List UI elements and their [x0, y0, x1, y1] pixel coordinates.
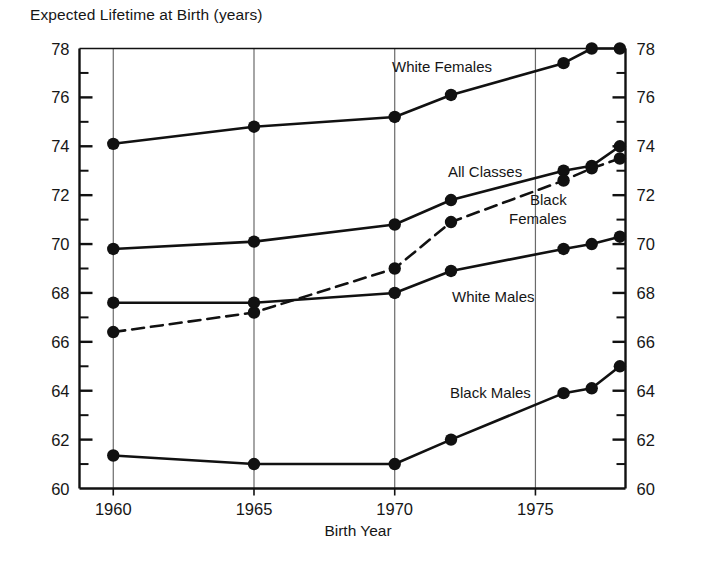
data-point-black-males-1960: [107, 449, 119, 461]
data-point-black-males-1978: [614, 360, 626, 372]
x-axis-tick-labels: 1960196519701975: [95, 500, 554, 518]
series-markers: [107, 42, 626, 470]
data-point-white-males-1978: [614, 231, 626, 243]
data-point-white-females-1978: [614, 42, 626, 54]
y-tick-label-right-72: 72: [637, 186, 655, 204]
y-axis-tick-labels-right: 78767472706866646260: [637, 40, 655, 498]
series-line-white-females: [113, 49, 620, 144]
y-tick-label-left-66: 66: [51, 333, 69, 351]
black-females-label-line1: Black: [530, 191, 567, 208]
data-point-white-females-1970: [389, 111, 401, 123]
x-axis-title: Birth Year: [0, 522, 706, 540]
data-point-white-females-1965: [248, 121, 260, 133]
y-tick-label-left-72: 72: [51, 186, 69, 204]
data-point-black-females-1972: [445, 216, 457, 228]
line-chart-canvas: 78767472706866646260 7876747270686664626…: [0, 0, 706, 563]
y-tick-label-left-74: 74: [51, 137, 69, 155]
data-point-all-classes-1970: [389, 218, 401, 230]
series-lines: [113, 49, 620, 465]
x-tick-label-1975: 1975: [517, 500, 554, 518]
y-tick-label-left-76: 76: [51, 88, 69, 106]
data-point-black-males-1972: [445, 433, 457, 445]
y-tick-label-right-62: 62: [637, 431, 655, 449]
y-tick-label-right-60: 60: [637, 480, 655, 498]
data-point-black-males-1977: [586, 382, 598, 394]
data-point-white-males-1976: [557, 243, 569, 255]
series-line-black-males: [113, 366, 620, 464]
x-tick-label-1960: 1960: [95, 500, 132, 518]
data-point-black-females-1977: [586, 162, 598, 174]
data-point-all-classes-1960: [107, 243, 119, 255]
data-point-black-females-1978: [614, 152, 626, 164]
data-point-white-males-1965: [248, 297, 260, 309]
data-point-all-classes-1972: [445, 194, 457, 206]
y-tick-label-left-70: 70: [51, 235, 69, 253]
black-males-label: Black Males: [450, 384, 531, 401]
axes-frame: [80, 49, 626, 489]
y-tick-label-left-62: 62: [51, 431, 69, 449]
y-tick-label-right-78: 78: [637, 40, 655, 58]
y-tick-label-right-70: 70: [637, 235, 655, 253]
y-tick-label-right-64: 64: [637, 382, 655, 400]
data-point-white-females-1972: [445, 89, 457, 101]
y-tick-label-left-78: 78: [51, 40, 69, 58]
y-tick-label-left-68: 68: [51, 284, 69, 302]
data-point-black-females-1970: [389, 262, 401, 274]
data-point-white-males-1977: [586, 238, 598, 250]
data-point-black-females-1960: [107, 326, 119, 338]
series-inline-labels: White FemalesAll ClassesBlackFemalesWhit…: [392, 58, 567, 401]
gridlines: [113, 49, 535, 489]
data-point-black-males-1970: [389, 458, 401, 470]
x-axis-title-text: Birth Year: [314, 522, 391, 539]
data-point-white-males-1960: [107, 297, 119, 309]
y-tick-label-right-74: 74: [637, 137, 655, 155]
all-classes-label: All Classes: [448, 163, 522, 180]
x-tick-label-1965: 1965: [236, 500, 273, 518]
data-point-black-males-1976: [557, 387, 569, 399]
data-point-black-females-1976: [557, 174, 569, 186]
y-tick-label-right-76: 76: [637, 88, 655, 106]
data-point-all-classes-1965: [248, 235, 260, 247]
y-tick-label-left-64: 64: [51, 382, 69, 400]
series-line-white-males: [113, 237, 620, 303]
data-point-all-classes-1978: [614, 140, 626, 152]
y-tick-label-right-66: 66: [637, 333, 655, 351]
white-males-label: White Males: [452, 288, 535, 305]
data-point-black-males-1965: [248, 458, 260, 470]
page-title: Expected Lifetime at Birth (years): [30, 6, 263, 24]
x-tick-label-1970: 1970: [376, 500, 413, 518]
axis-ticks: [80, 73, 626, 496]
data-point-white-females-1960: [107, 138, 119, 150]
data-point-white-males-1972: [445, 265, 457, 277]
chart-figure: Expected Lifetime at Birth (years) 78767…: [0, 0, 706, 563]
y-tick-label-right-68: 68: [637, 284, 655, 302]
white-females-label: White Females: [392, 58, 492, 75]
data-point-white-males-1970: [389, 287, 401, 299]
data-point-white-females-1976: [557, 57, 569, 69]
y-tick-label-left-60: 60: [51, 480, 69, 498]
y-axis-tick-labels-left: 78767472706866646260: [51, 40, 69, 498]
data-point-white-females-1977: [586, 42, 598, 54]
black-females-label-line2: Females: [509, 210, 567, 227]
